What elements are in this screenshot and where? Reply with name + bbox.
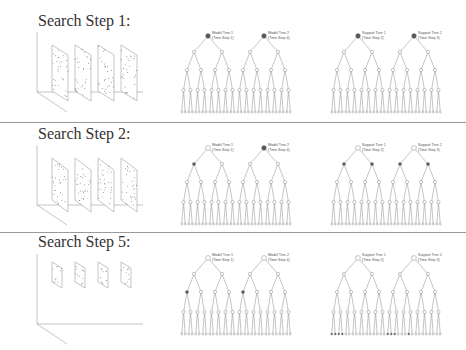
svg-text:Support Tree 2: Support Tree 2	[418, 31, 442, 35]
step-title: Search Step 2:	[38, 125, 130, 143]
svg-text:Support Tree 2: Support Tree 2	[418, 143, 442, 147]
svg-text:(Time Step 2): (Time Step 2)	[362, 36, 384, 40]
tree-model-2: Model Tree 2(Time Step 4)	[233, 140, 303, 230]
step-title: Search Step 5:	[38, 233, 130, 251]
tree-support-2: Support Tree 2(Time Step 3)	[383, 250, 453, 340]
state-space-planes	[25, 30, 150, 115]
svg-text:(Time Step 2): (Time Step 2)	[362, 258, 384, 262]
search-step-row-3: Search Step 5: Model Tree 1(Time Step 1)…	[0, 230, 466, 345]
svg-text:Model Tree 1: Model Tree 1	[212, 31, 233, 35]
svg-text:Model Tree 1: Model Tree 1	[212, 143, 233, 147]
svg-text:(Time Step 3): (Time Step 3)	[418, 36, 440, 40]
svg-text:(Time Step 4): (Time Step 4)	[268, 258, 290, 262]
tree-support-2: Support Tree 2(Time Step 3)	[383, 140, 453, 230]
svg-text:(Time Step 2): (Time Step 2)	[362, 148, 384, 152]
tree-support-2: Support Tree 2(Time Step 3)	[383, 28, 453, 118]
step-title: Search Step 1:	[38, 12, 130, 30]
tree-model-2: Model Tree 2(Time Step 4)	[233, 250, 303, 340]
svg-text:(Time Step 3): (Time Step 3)	[418, 258, 440, 262]
svg-text:Model Tree 1: Model Tree 1	[212, 253, 233, 257]
svg-text:Model Tree 2: Model Tree 2	[268, 143, 289, 147]
search-step-row-1: Search Step 1: Model Tree 1(Time Step 1)…	[0, 0, 466, 115]
state-space-planes	[25, 143, 150, 228]
svg-text:(Time Step 3): (Time Step 3)	[418, 148, 440, 152]
svg-text:(Time Step 4): (Time Step 4)	[268, 148, 290, 152]
svg-text:(Time Step 4): (Time Step 4)	[268, 36, 290, 40]
svg-text:(Time Step 1): (Time Step 1)	[212, 148, 234, 152]
tree-model-2: Model Tree 2(Time Step 4)	[233, 28, 303, 118]
svg-text:(Time Step 1): (Time Step 1)	[212, 36, 234, 40]
state-space-planes	[25, 252, 150, 347]
svg-text:Support Tree 2: Support Tree 2	[418, 253, 442, 257]
svg-text:Model Tree 2: Model Tree 2	[268, 31, 289, 35]
svg-text:(Time Step 1): (Time Step 1)	[212, 258, 234, 262]
search-step-row-2: Search Step 2: Model Tree 1(Time Step 1)…	[0, 115, 466, 230]
svg-text:Model Tree 2: Model Tree 2	[268, 253, 289, 257]
